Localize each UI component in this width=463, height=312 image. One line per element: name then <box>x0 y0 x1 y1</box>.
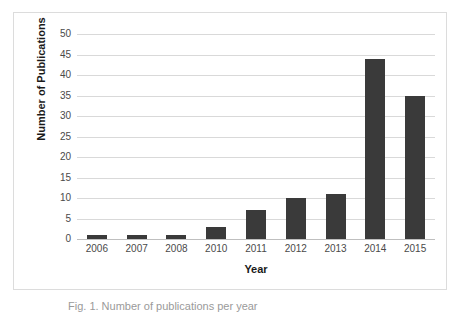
figure-caption: Fig. 1. Number of publications per year <box>68 300 398 312</box>
y-tick-label: 45 <box>41 50 71 60</box>
bar[interactable] <box>326 194 346 239</box>
plot-area <box>77 34 435 239</box>
bar[interactable] <box>127 235 147 239</box>
bar-slot <box>355 34 395 239</box>
bar[interactable] <box>206 227 226 239</box>
bar-slot <box>236 34 276 239</box>
y-tick-label: 25 <box>41 132 71 142</box>
gridline <box>77 239 435 240</box>
chart-frame: Number of Publications 05101520253035404… <box>13 12 447 290</box>
bar-slot <box>316 34 356 239</box>
bar[interactable] <box>87 235 107 239</box>
bar[interactable] <box>365 59 385 239</box>
y-axis-tick-labels: 05101520253035404550 <box>38 34 71 239</box>
bar-slot <box>117 34 157 239</box>
bar[interactable] <box>405 96 425 240</box>
y-tick-label: 30 <box>41 111 71 121</box>
x-tick-label: 2007 <box>117 243 157 255</box>
y-tick-label: 20 <box>41 152 71 162</box>
x-tick-label: 2011 <box>236 243 276 255</box>
bar-slot <box>196 34 236 239</box>
y-tick-label: 40 <box>41 70 71 80</box>
x-axis-tick-labels: 200620072008201020112012201320142015 <box>77 243 435 257</box>
bar[interactable] <box>246 210 266 239</box>
bar[interactable] <box>286 198 306 239</box>
x-tick-label: 2010 <box>196 243 236 255</box>
y-tick-label: 50 <box>41 29 71 39</box>
x-tick-label: 2012 <box>276 243 316 255</box>
y-tick-label: 0 <box>41 234 71 244</box>
y-tick-label: 10 <box>41 193 71 203</box>
x-tick-label: 2015 <box>395 243 435 255</box>
bar[interactable] <box>166 235 186 239</box>
bar-slot <box>395 34 435 239</box>
x-tick-label: 2013 <box>316 243 356 255</box>
x-tick-label: 2014 <box>355 243 395 255</box>
x-axis-title: Year <box>77 263 435 275</box>
bar-slot <box>276 34 316 239</box>
bar-slot <box>157 34 197 239</box>
bar-slot <box>77 34 117 239</box>
y-tick-label: 35 <box>41 91 71 101</box>
y-tick-label: 5 <box>41 214 71 224</box>
y-tick-label: 15 <box>41 173 71 183</box>
x-tick-label: 2008 <box>157 243 197 255</box>
x-tick-label: 2006 <box>77 243 117 255</box>
